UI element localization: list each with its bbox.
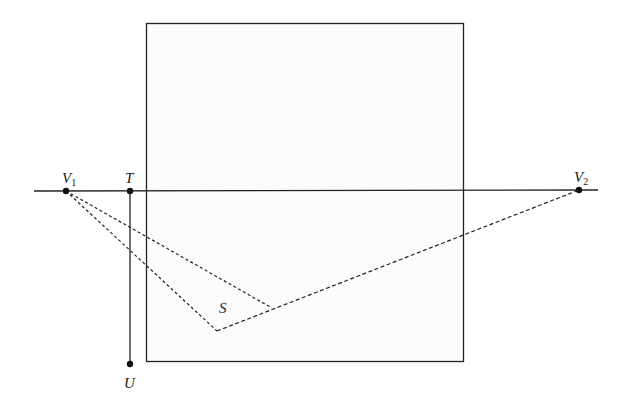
perspective-diagram: V1 T V2 S U	[0, 0, 626, 404]
point-V2	[576, 187, 582, 193]
label-S: S	[219, 300, 227, 316]
label-V1: V1	[62, 170, 76, 188]
picture-frame	[147, 24, 464, 362]
horizon-line	[34, 190, 598, 191]
label-U: U	[124, 375, 136, 391]
point-V1	[63, 188, 69, 194]
point-T	[127, 188, 133, 194]
label-T: T	[125, 170, 135, 186]
label-V2: V2	[574, 169, 588, 187]
point-U	[127, 361, 133, 367]
